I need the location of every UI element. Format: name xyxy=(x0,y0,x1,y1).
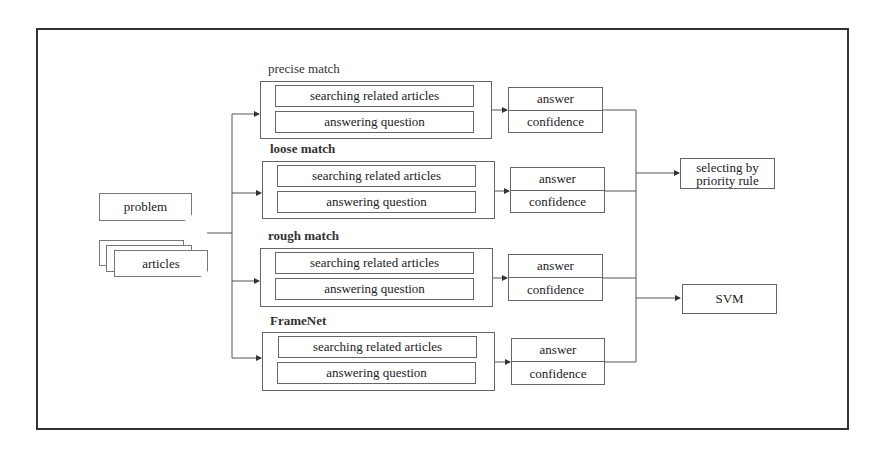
answering-box: answering question xyxy=(275,111,474,133)
answering-box: answering question xyxy=(277,191,476,213)
priority-rule-box: selecting by priority rule xyxy=(680,158,775,189)
confidence-label: confidence xyxy=(529,195,586,209)
answering-label: answering question xyxy=(326,195,427,209)
problem-label: problem xyxy=(124,200,167,214)
confidence-label: confidence xyxy=(527,283,584,297)
answer-label: answer xyxy=(539,172,576,186)
answering-label: answering question xyxy=(324,115,425,129)
priority-rule-label: selecting by priority rule xyxy=(688,161,768,187)
answer-confidence-box: answer confidence xyxy=(508,254,603,301)
answer-cell: answer xyxy=(512,339,604,362)
answering-box: answering question xyxy=(275,278,474,300)
searching-box: searching related articles xyxy=(278,336,477,358)
problem-document: problem xyxy=(99,193,192,221)
confidence-cell: confidence xyxy=(509,111,602,133)
searching-box: searching related articles xyxy=(277,165,476,187)
confidence-cell: confidence xyxy=(511,191,604,213)
searching-box: searching related articles xyxy=(275,85,474,107)
group-label-loose-match: loose match xyxy=(270,141,335,157)
confidence-cell: confidence xyxy=(512,362,604,385)
searching-label: searching related articles xyxy=(313,340,442,354)
group-label-rough-match: rough match xyxy=(268,228,339,244)
answering-box: answering question xyxy=(277,362,476,384)
answer-confidence-box: answer confidence xyxy=(510,167,605,213)
searching-label: searching related articles xyxy=(310,256,439,270)
answer-confidence-box: answer confidence xyxy=(511,338,605,385)
articles-document: articles xyxy=(114,250,208,277)
confidence-label: confidence xyxy=(527,115,584,129)
answering-label: answering question xyxy=(324,282,425,296)
answering-label: answering question xyxy=(326,366,427,380)
answer-label: answer xyxy=(540,343,577,357)
svm-box: SVM xyxy=(682,284,777,314)
confidence-cell: confidence xyxy=(509,278,602,301)
answer-label: answer xyxy=(537,92,574,106)
searching-label: searching related articles xyxy=(312,169,441,183)
answer-cell: answer xyxy=(509,88,602,111)
group-label-framenet: FrameNet xyxy=(270,313,326,329)
articles-label: articles xyxy=(142,257,180,271)
answer-cell: answer xyxy=(509,255,602,278)
answer-confidence-box: answer confidence xyxy=(508,87,603,133)
answer-label: answer xyxy=(537,259,574,273)
confidence-label: confidence xyxy=(529,367,586,381)
searching-label: searching related articles xyxy=(310,89,439,103)
group-label-precise-match: precise match xyxy=(268,61,340,77)
answer-cell: answer xyxy=(511,168,604,191)
searching-box: searching related articles xyxy=(275,252,474,274)
svm-label: SVM xyxy=(715,292,743,306)
